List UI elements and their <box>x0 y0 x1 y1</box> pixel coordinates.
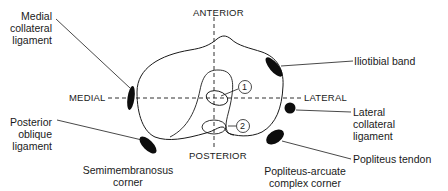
lcl-label: Lateral collateral ligament <box>353 106 395 142</box>
marker-1-label: 1 <box>242 81 247 93</box>
posterior-label: POSTERIOR <box>189 150 247 162</box>
marker-2-label: 2 <box>240 120 245 132</box>
knee-diagram: ANTERIOR POSTERIOR MEDIAL LATERAL 1 2 Me… <box>0 0 448 191</box>
pol-label: Posterior oblique ligament <box>2 116 52 152</box>
anterior-label: ANTERIOR <box>193 7 244 19</box>
lcl-shape <box>285 103 296 114</box>
itb-label: Iliotibial band <box>354 55 415 67</box>
semimembranosus-corner-label: Semimembranosus corner <box>78 164 178 188</box>
tibial-outline <box>137 36 283 140</box>
popliteus-corner-label: Popliteus-arcuate complex corner <box>255 165 355 189</box>
mcl-label: Medial collateral ligament <box>2 10 52 46</box>
popliteus-shape <box>263 126 286 147</box>
lateral-label: LATERAL <box>304 92 347 104</box>
mcl-shape <box>126 86 136 111</box>
medial-label: MEDIAL <box>69 92 106 104</box>
popliteus-tendon-label: Popliteus tendon <box>353 153 431 165</box>
